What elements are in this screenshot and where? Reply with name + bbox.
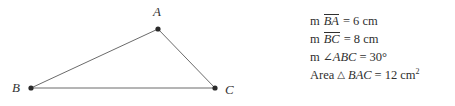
measure-prefix-area: Area bbox=[310, 68, 334, 82]
vertex-point-A bbox=[155, 26, 160, 31]
measure-value-ba: 6 cm bbox=[353, 14, 378, 28]
segment-label-bc: BC bbox=[324, 32, 340, 46]
measure-value-bc: 8 cm bbox=[354, 32, 379, 46]
measurement-row-angle-abc: m∠ABC=30° bbox=[310, 48, 455, 66]
measure-prefix-angle: m bbox=[310, 50, 320, 64]
triangle-icon: △ bbox=[337, 66, 345, 84]
measurement-row-ba: mBA=6 cm bbox=[310, 12, 455, 30]
edge-BA bbox=[31, 29, 158, 88]
vertex-label-b: B bbox=[12, 81, 20, 94]
vertex-label-a: A bbox=[153, 5, 161, 18]
triangle-svg bbox=[0, 0, 260, 106]
edge-AC bbox=[158, 29, 215, 88]
relation-ba: = bbox=[343, 14, 350, 28]
vertex-label-c: C bbox=[225, 83, 234, 96]
measure-prefix-bc: m bbox=[310, 32, 320, 46]
measurement-row-bc: mBC=8 cm bbox=[310, 30, 455, 48]
triangle-diagram: A B C bbox=[0, 0, 260, 106]
angle-label-abc: ABC bbox=[333, 50, 357, 64]
measure-value-area: 12 cm bbox=[385, 68, 416, 82]
measure-prefix-ba: m bbox=[310, 14, 320, 28]
triangle-label-bac: BAC bbox=[348, 68, 372, 82]
angle-icon: ∠ bbox=[323, 50, 333, 64]
vertex-point-B bbox=[28, 85, 33, 90]
measurement-list: mBA=6 cm mBC=8 cm m∠ABC=30° Area△BAC=12 … bbox=[310, 12, 455, 84]
measurement-row-area: Area△BAC=12 cm2 bbox=[310, 66, 455, 84]
area-unit-exponent: 2 bbox=[416, 67, 420, 76]
measure-value-angle: 30° bbox=[369, 50, 387, 64]
vertex-point-C bbox=[212, 85, 217, 90]
relation-area: = bbox=[375, 68, 382, 82]
relation-bc: = bbox=[344, 32, 351, 46]
relation-angle: = bbox=[359, 50, 366, 64]
segment-label-ba: BA bbox=[324, 14, 339, 28]
figure-container: A B C mBA=6 cm mBC=8 cm m∠ABC=30° Area△B… bbox=[0, 0, 455, 106]
